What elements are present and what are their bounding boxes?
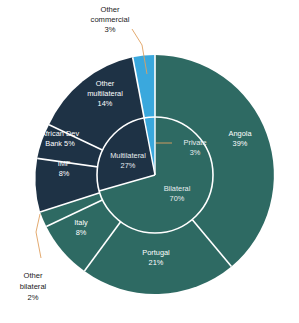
label-portugal-name: Portugal: [142, 248, 170, 257]
label-other-multilateral-line2: multilateral: [87, 89, 123, 98]
label-private-pct: 3%: [190, 148, 201, 157]
chart-canvas: Angola 39% Portugal 21% Italy 8% IMF 8% …: [0, 0, 299, 323]
label-african-dev-bank-line1: African Dev: [41, 129, 80, 138]
label-angola-pct: 39%: [233, 139, 248, 148]
callout-other-commercial-line2: commercial: [91, 15, 130, 24]
nested-pie-chart: Angola 39% Portugal 21% Italy 8% IMF 8% …: [0, 0, 299, 323]
label-other-multilateral-line1: Other: [96, 79, 115, 88]
label-italy-name: Italy: [74, 218, 88, 227]
callout-other-commercial-line1: Other: [101, 5, 120, 14]
label-african-dev-bank-line2: Bank 5%: [45, 139, 75, 148]
label-italy-pct: 8%: [76, 228, 87, 237]
callout-other-bilateral-line1: Other: [24, 271, 43, 280]
label-other-multilateral-pct: 14%: [98, 99, 113, 108]
callout-other-commercial-pct: 3%: [105, 25, 116, 34]
label-multilateral-name: Multilateral: [110, 151, 146, 160]
label-bilateral-name: Bilateral: [164, 184, 191, 193]
label-portugal-pct: 21%: [149, 258, 164, 267]
label-bilateral-pct: 70%: [170, 194, 185, 203]
callout-other-bilateral-pct: 2%: [28, 293, 39, 302]
label-angola-name: Angola: [228, 129, 252, 138]
label-multilateral-pct: 27%: [121, 161, 136, 170]
callout-other-bilateral-line2: bilateral: [20, 282, 47, 291]
label-imf-name: IMF: [58, 159, 71, 168]
label-imf-pct: 8%: [59, 169, 70, 178]
label-private-name: Private: [183, 138, 206, 147]
